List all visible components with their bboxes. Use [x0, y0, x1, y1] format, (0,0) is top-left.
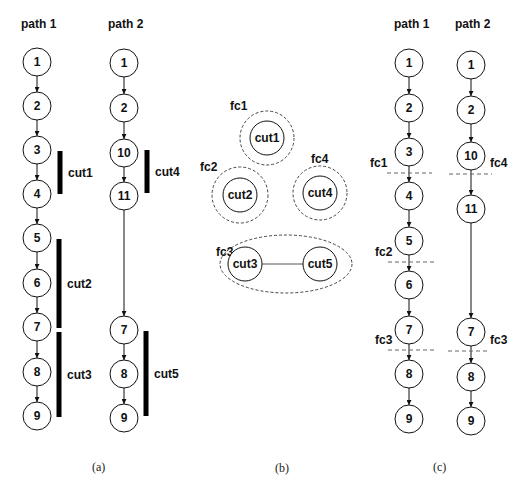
node-label: 7: [34, 320, 41, 334]
a-path1-node-8: 8: [23, 358, 51, 386]
c-path1-node-8: 8: [395, 360, 423, 388]
a-path2-node-2: 2: [110, 94, 138, 122]
panel-a-caption: (a): [92, 460, 105, 474]
panel-c-path1-title: path 1: [394, 17, 430, 31]
node-label: 1: [121, 56, 128, 70]
node-label: 9: [406, 412, 413, 426]
node-label: 6: [34, 276, 41, 290]
panel-a-path1-title: path 1: [21, 17, 57, 31]
c-path2-node-11: 11: [457, 195, 485, 223]
node-label: 7: [121, 323, 128, 337]
node-label: 7: [406, 323, 413, 337]
cut2-label: cut2: [67, 277, 92, 291]
a-path2-node-1: 1: [110, 49, 138, 77]
cut3-label: cut3: [67, 368, 92, 382]
a-path2-node-7: 7: [110, 316, 138, 344]
cut1-bar: [58, 151, 63, 194]
fc1-cutline-label: fc1: [370, 156, 388, 170]
a-path2-node-11: 11: [110, 182, 138, 210]
node-label: 3: [406, 145, 413, 159]
cut3-bar: [57, 332, 62, 417]
node-label: 8: [121, 367, 128, 381]
cut3-label: cut3: [233, 257, 258, 271]
panel-b-caption: (b): [275, 461, 289, 475]
c-path2-node-10: 10: [457, 142, 485, 170]
fc4-cutline-label: fc4: [490, 156, 508, 170]
panel-c-path2-title: path 2: [455, 17, 491, 31]
cut2-label: cut2: [228, 188, 253, 202]
c-path1-node-5: 5: [395, 227, 423, 255]
cut2-bar: [57, 239, 62, 328]
c-path2-node-2: 2: [457, 96, 485, 124]
panel-c: 123456789121011789fc1fc4fc2fc3fc3: [370, 49, 508, 435]
node-label: 9: [468, 414, 475, 428]
a-path2-node-8: 8: [110, 360, 138, 388]
fc4-group: fc4cut4: [293, 152, 347, 220]
c-path1-node-1: 1: [395, 49, 423, 77]
c-path2-node-9: 9: [457, 407, 485, 435]
node-label: 5: [406, 234, 413, 248]
diagram-canvas: path 1 path 2 path 1 path 2 123456789121…: [0, 0, 527, 489]
c-path1-node-7: 7: [395, 316, 423, 344]
a-path2-node-9: 9: [110, 404, 138, 432]
node-label: 5: [34, 231, 41, 245]
a-path1-node-9: 9: [23, 402, 51, 430]
c-path1-node-2: 2: [395, 94, 423, 122]
node-label: 2: [468, 103, 475, 117]
cut5-label: cut5: [308, 257, 333, 271]
fc3-cutline-label: fc3: [490, 333, 508, 347]
c-path2-node-1: 1: [457, 51, 485, 79]
node-label: 9: [121, 411, 128, 425]
a-path1-node-1: 1: [23, 48, 51, 76]
node-label: 3: [34, 143, 41, 157]
fc1-label: fc1: [230, 99, 248, 113]
node-label: 6: [406, 278, 413, 292]
cut5-bar: [144, 331, 149, 416]
node-label: 9: [34, 409, 41, 423]
fc4-label: fc4: [311, 152, 329, 166]
node-label: 2: [34, 99, 41, 113]
fc2-group: fc2cut2: [200, 160, 268, 223]
a-path1-node-4: 4: [23, 180, 51, 208]
node-label: 2: [406, 101, 413, 115]
node-label: 4: [34, 187, 41, 201]
node-label: 11: [118, 189, 131, 203]
panel-a: 123456789121011789cut1cut2cut3cut4cut5: [23, 48, 180, 432]
cut1-label: cut1: [255, 131, 280, 145]
fc3-cutline-label: fc3: [375, 333, 393, 347]
node-label: 1: [34, 55, 41, 69]
a-path1-node-7: 7: [23, 313, 51, 341]
cut4-label: cut4: [308, 186, 333, 200]
c-path2-node-7: 7: [457, 318, 485, 346]
node-label: 4: [406, 189, 413, 203]
a-path1-node-3: 3: [23, 136, 51, 164]
panel-b: fc1cut1fc2cut2fc4cut4fc3cut3cut5: [200, 99, 352, 293]
cut4-label: cut4: [155, 165, 180, 179]
node-label: 8: [406, 367, 413, 381]
c-path1-node-9: 9: [395, 405, 423, 433]
node-label: 2: [121, 101, 128, 115]
node-label: 1: [468, 58, 475, 72]
node-label: 10: [464, 149, 478, 163]
fc1-group: fc1cut1: [230, 99, 294, 165]
c-path2-node-8: 8: [457, 363, 485, 391]
node-label: 8: [468, 370, 475, 384]
panel-c-caption: (c): [433, 460, 446, 474]
cut5-label: cut5: [154, 367, 179, 381]
a-path2-node-10: 10: [110, 139, 138, 167]
node-label: 7: [468, 325, 475, 339]
node-label: 1: [406, 56, 413, 70]
a-path1-node-2: 2: [23, 92, 51, 120]
c-path1-node-4: 4: [395, 182, 423, 210]
node-label: 10: [117, 146, 131, 160]
c-path1-node-3: 3: [395, 138, 423, 166]
cut4-bar: [145, 150, 150, 193]
cut1-label: cut1: [68, 166, 93, 180]
fc2-label: fc2: [200, 160, 218, 174]
a-path1-node-6: 6: [23, 269, 51, 297]
node-label: 8: [34, 365, 41, 379]
c-path1-node-6: 6: [395, 271, 423, 299]
node-label: 11: [465, 202, 478, 216]
fc2-cutline-label: fc2: [375, 245, 393, 259]
a-path1-node-5: 5: [23, 224, 51, 252]
